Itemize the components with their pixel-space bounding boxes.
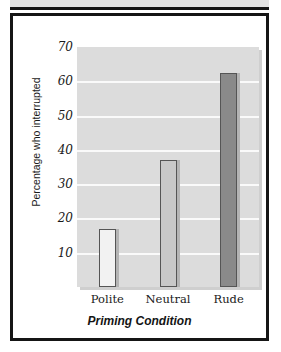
plot-area — [77, 47, 259, 287]
top-gray-band — [10, 0, 269, 10]
y-tick-label: 30 — [41, 178, 73, 190]
x-tick-label: Neutral — [146, 292, 191, 306]
bar-polite — [99, 229, 116, 287]
x-axis-label: Priming Condition — [13, 314, 266, 328]
bar-neutral — [160, 160, 177, 287]
y-axis-label: Percentage who interrupted — [30, 52, 42, 232]
y-tick-label: 60 — [41, 75, 73, 87]
y-tick-label: 10 — [41, 247, 73, 259]
figure-root: 10203040506070 Percentage who interrupte… — [0, 0, 281, 352]
x-tick-label: Polite — [91, 292, 124, 306]
x-axis-ticks: PoliteNeutralRude — [77, 292, 259, 310]
chart-panel: 10203040506070 Percentage who interrupte… — [10, 13, 269, 341]
x-tick-label: Rude — [214, 292, 244, 306]
y-tick-label: 40 — [41, 144, 73, 156]
y-tick-label: 50 — [41, 110, 73, 122]
bar-rude — [220, 73, 237, 287]
y-tick-label: 20 — [41, 212, 73, 224]
y-tick-label: 70 — [41, 41, 73, 53]
